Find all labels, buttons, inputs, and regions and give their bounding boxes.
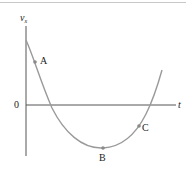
velocity-time-graph: vx t 0 A B C — [0, 0, 186, 171]
point-b-marker — [101, 146, 105, 150]
origin-label: 0 — [14, 99, 19, 110]
point-c-marker — [137, 124, 141, 128]
point-c-label: C — [142, 122, 149, 133]
point-a-label: A — [40, 55, 48, 66]
point-b-label: B — [99, 152, 106, 163]
y-axis-label: vx — [20, 12, 27, 24]
x-axis-label: t — [178, 99, 181, 110]
point-a-marker — [33, 60, 37, 64]
